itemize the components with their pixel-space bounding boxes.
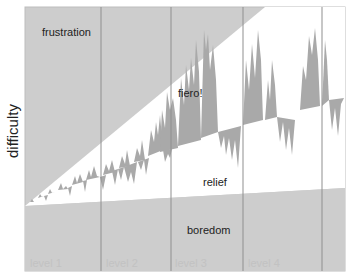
level-label-4: level 4 (248, 257, 280, 269)
zone-label-boredom: boredom (187, 224, 230, 236)
diagram-canvas (0, 0, 350, 279)
level-label-1: level 1 (30, 257, 62, 269)
level-label-2: level 2 (106, 257, 138, 269)
zone-label-relief: relief (203, 176, 227, 188)
zone-label-frustration: frustration (42, 26, 91, 38)
zone-label-fiero: fiero! (178, 87, 202, 99)
y-axis-label: difficulty (3, 96, 23, 166)
difficulty-flow-diagram: difficulty frustration fiero! relief bor… (0, 0, 350, 279)
level-label-3: level 3 (175, 257, 207, 269)
